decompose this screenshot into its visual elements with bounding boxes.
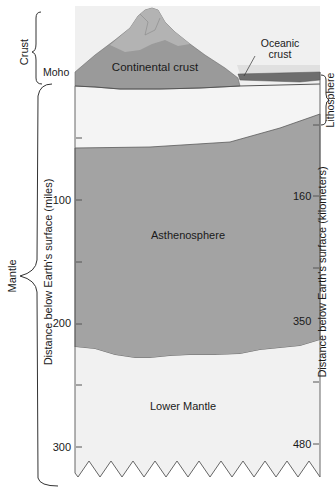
crust-label: Crust [18, 39, 30, 65]
mantle-label: Mantle [6, 259, 18, 292]
continental-crust-label: Continental crust [112, 61, 199, 73]
earth-layers-diagram: 100 200 300 160 350 480 Distance below E… [0, 0, 335, 496]
left-tick-100: 100 [53, 194, 71, 206]
moho-label: Moho [43, 66, 69, 78]
right-axis-title: Distance below Earth's surface (kilomete… [316, 166, 328, 377]
right-tick-480: 480 [293, 438, 311, 450]
crust-bracket [32, 12, 42, 84]
left-axis-title: Distance below Earth's surface (miles) [42, 179, 54, 366]
lithosphere-label: Lithosphere [324, 72, 335, 127]
right-tick-160: 160 [293, 190, 311, 202]
asthenosphere-label: Asthenosphere [151, 229, 225, 241]
oceanic-crust [238, 72, 320, 82]
oceanic-crust-label-line2: crust [269, 48, 292, 60]
lower-mantle-label: Lower Mantle [150, 400, 216, 412]
right-tick-350: 350 [293, 315, 311, 327]
left-tick-300: 300 [53, 441, 71, 453]
left-tick-200: 200 [53, 317, 71, 329]
